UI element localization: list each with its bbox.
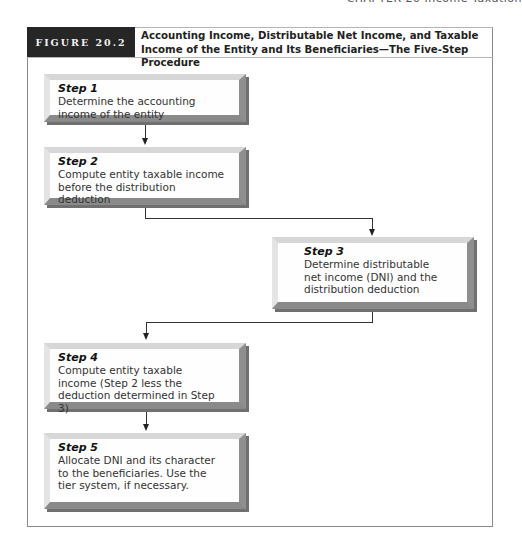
step-5-title: Step 5: [58, 441, 231, 454]
arrow-down-icon: [143, 424, 149, 431]
step-1-title: Step 1: [58, 82, 231, 95]
arrow-down-icon: [369, 229, 375, 236]
connector-3-4-across: [146, 322, 373, 323]
step-4-box: Step 4 Compute entity taxable income (St…: [44, 343, 246, 409]
step-4-title: Step 4: [58, 351, 231, 364]
arrow-down-icon: [143, 333, 149, 340]
step-3-title: Step 3: [286, 245, 459, 258]
figure-header: FIGURE 20.2 Accounting Income, Distribut…: [27, 27, 493, 58]
running-head: CHAPTER 20 Income Taxation: [347, 0, 522, 5]
arrow-down-icon: [142, 138, 148, 145]
step-1-box: Step 1 Determine the accounting income o…: [44, 74, 246, 122]
step-1-text: Determine the accounting income of the e…: [58, 95, 198, 120]
step-5-text: Allocate DNI and its character to the be…: [58, 454, 218, 492]
step-2-title: Step 2: [58, 155, 231, 168]
step-4-text: Compute entity taxable income (Step 2 le…: [58, 364, 223, 414]
step-3-box: Step 3 Determine distributable net incom…: [272, 237, 474, 309]
step-5-box: Step 5 Allocate DNI and its character to…: [44, 433, 246, 509]
figure-title: Accounting Income, Distributable Net Inc…: [135, 27, 493, 57]
connector-1-2: [145, 125, 146, 139]
step-3-text: Determine distributable net income (DNI)…: [286, 258, 444, 296]
figure-label: FIGURE 20.2: [27, 27, 135, 57]
connector-2-3-across: [145, 218, 373, 219]
step-2-box: Step 2 Compute entity taxable income bef…: [44, 147, 246, 205]
step-2-text: Compute entity taxable income before the…: [58, 168, 231, 206]
